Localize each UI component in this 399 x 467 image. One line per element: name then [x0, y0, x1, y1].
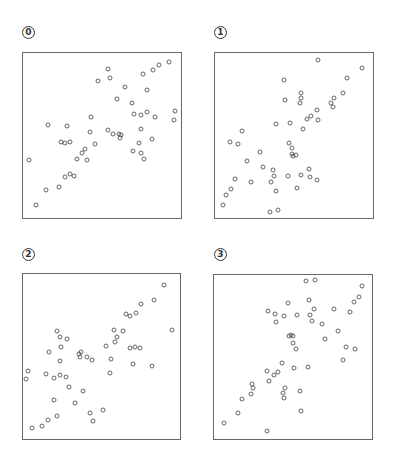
data-point — [267, 379, 271, 383]
data-point — [265, 429, 269, 433]
data-point — [150, 137, 154, 141]
data-point — [128, 346, 132, 350]
data-point — [331, 105, 335, 109]
data-point — [286, 174, 290, 178]
data-point — [128, 314, 132, 318]
plot-frame — [23, 53, 182, 219]
data-point — [30, 426, 34, 430]
data-point — [172, 118, 176, 122]
data-point — [281, 391, 285, 395]
data-point — [348, 310, 352, 314]
data-point — [301, 127, 305, 131]
data-point — [283, 386, 287, 390]
data-point — [55, 329, 59, 333]
data-point — [91, 419, 95, 423]
data-point — [46, 123, 50, 127]
data-point — [276, 208, 280, 212]
data-point — [222, 421, 226, 425]
data-point — [106, 67, 110, 71]
data-point — [142, 157, 146, 161]
data-point — [294, 347, 298, 351]
data-point — [139, 113, 143, 117]
data-point — [27, 158, 31, 162]
data-point — [123, 85, 127, 89]
data-point — [108, 371, 112, 375]
data-point — [224, 193, 228, 197]
data-point — [113, 340, 117, 344]
data-point — [90, 358, 94, 362]
data-point — [332, 96, 336, 100]
data-point — [40, 424, 44, 428]
data-point — [55, 414, 59, 418]
data-point — [58, 359, 62, 363]
data-point — [96, 79, 100, 83]
data-point — [157, 63, 161, 67]
data-point — [63, 141, 67, 145]
data-point — [307, 298, 311, 302]
data-point — [282, 78, 286, 82]
data-point — [240, 129, 244, 133]
data-point — [245, 159, 249, 163]
data-point — [85, 355, 89, 359]
data-point — [298, 101, 302, 105]
data-point — [64, 375, 68, 379]
data-point — [287, 141, 291, 145]
data-point — [233, 177, 237, 181]
data-point — [167, 60, 171, 64]
data-point — [109, 357, 113, 361]
data-point — [320, 322, 324, 326]
data-point — [93, 142, 97, 146]
data-point — [344, 345, 348, 349]
data-point — [101, 408, 105, 412]
data-point — [229, 187, 233, 191]
data-point — [249, 180, 253, 184]
data-point — [268, 210, 272, 214]
data-point — [58, 335, 62, 339]
data-point — [108, 76, 112, 80]
data-point — [316, 118, 320, 122]
data-point — [88, 130, 92, 134]
data-point — [34, 203, 38, 207]
data-point — [360, 66, 364, 70]
data-point — [47, 350, 51, 354]
data-point — [292, 366, 296, 370]
data-point — [357, 295, 361, 299]
data-point — [68, 172, 72, 176]
data-point — [286, 301, 290, 305]
data-point — [89, 115, 93, 119]
data-point — [88, 411, 92, 415]
data-point — [283, 98, 287, 102]
data-point — [145, 88, 149, 92]
data-point — [265, 369, 269, 373]
scatter-panel-0 — [23, 53, 182, 219]
scatter-panel-1 — [215, 53, 374, 219]
data-point — [131, 362, 135, 366]
data-point — [44, 188, 48, 192]
data-point — [121, 329, 125, 333]
data-point — [299, 173, 303, 177]
data-point — [308, 313, 312, 317]
data-point — [240, 397, 244, 401]
data-point — [352, 300, 356, 304]
data-point — [236, 142, 240, 146]
data-point — [63, 175, 67, 179]
data-point — [73, 401, 77, 405]
data-point — [345, 76, 349, 80]
data-point — [153, 115, 157, 119]
data-point — [269, 180, 273, 184]
scatter-panel-3 — [214, 275, 373, 440]
data-point — [141, 72, 145, 76]
data-point — [139, 302, 143, 306]
plot-frame — [215, 53, 374, 219]
data-point — [272, 174, 276, 178]
data-point — [46, 418, 50, 422]
data-point — [65, 337, 69, 341]
data-point — [273, 312, 277, 316]
data-point — [249, 392, 253, 396]
data-point — [336, 329, 340, 333]
data-point — [282, 396, 286, 400]
data-point — [75, 157, 79, 161]
data-point — [310, 319, 314, 323]
data-point — [72, 174, 76, 178]
data-point — [315, 108, 319, 112]
